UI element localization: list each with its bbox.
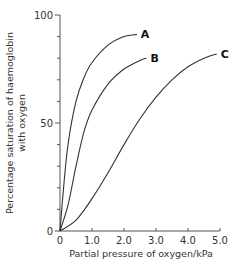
curve-c bbox=[60, 54, 217, 231]
x-tick-label: 2.0 bbox=[116, 235, 132, 246]
y-tick-label: 50 bbox=[40, 118, 53, 129]
y-tick-label: 0 bbox=[47, 226, 53, 237]
x-tick-label: 4.0 bbox=[180, 235, 196, 246]
curve-label-b: B bbox=[150, 52, 158, 65]
x-axis-label: Partial pressure of oxygen/kPa bbox=[69, 248, 213, 259]
curve-a bbox=[60, 34, 137, 231]
x-tick-label: 3.0 bbox=[148, 235, 164, 246]
curve-b bbox=[60, 58, 146, 231]
y-axis-label: Percentage saturation of haemoglobin bbox=[4, 32, 15, 214]
curves bbox=[60, 34, 217, 231]
x-tick-label: 1.0 bbox=[84, 235, 100, 246]
axes: 05010001.02.03.04.05.0 bbox=[34, 10, 228, 247]
curve-label-a: A bbox=[141, 28, 150, 41]
x-tick-label: 0 bbox=[57, 235, 63, 246]
curve-label-c: C bbox=[221, 48, 229, 61]
y-axis-label: with oxygen bbox=[16, 94, 27, 152]
y-tick-label: 100 bbox=[34, 10, 53, 21]
x-tick-label: 5.0 bbox=[212, 235, 228, 246]
oxygen-dissociation-chart: 05010001.02.03.04.05.0 Partial pressure … bbox=[0, 0, 235, 265]
